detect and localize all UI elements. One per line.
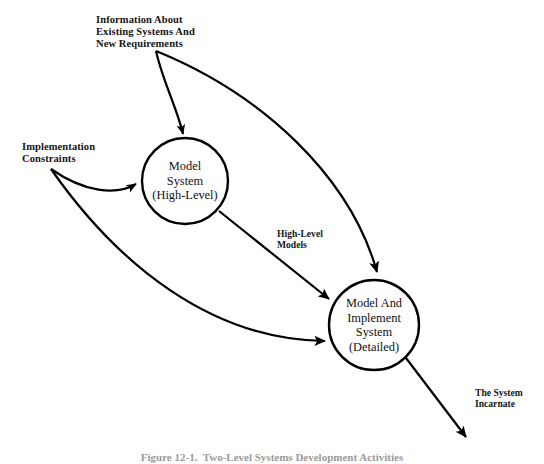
edge-label-the-system-incarnate: The System Incarnate xyxy=(475,387,523,409)
edge-label-high-level-models: High-Level Models xyxy=(277,228,323,250)
diagram-graphics xyxy=(0,0,544,464)
edge-system-incarnate xyxy=(406,358,466,437)
input-label-information-about: Information About Existing Systems And N… xyxy=(96,14,195,51)
edge-information-to-model-system xyxy=(156,51,183,134)
figure-canvas: Information About Existing Systems And N… xyxy=(0,0,544,464)
node-label-model-system: Model System (High-Level) xyxy=(152,159,217,203)
input-label-implementation-constraints: Implementation Constraints xyxy=(22,141,95,165)
figure-caption: Figure 12-1. Two-Level Systems Developme… xyxy=(0,451,544,464)
edge-high-level-models xyxy=(219,211,329,299)
node-label-model-implement-system: Model And Implement System (Detailed) xyxy=(346,296,402,354)
